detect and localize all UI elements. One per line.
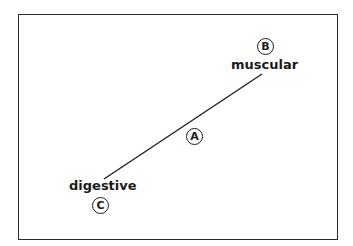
marker-b-letter: B: [261, 41, 269, 52]
connector-line: [0, 0, 353, 246]
marker-a: A: [186, 128, 203, 145]
label-muscular: muscular: [231, 58, 298, 71]
marker-b: B: [257, 38, 274, 55]
label-digestive: digestive: [69, 179, 137, 192]
marker-c: C: [92, 197, 109, 214]
marker-c-letter: C: [96, 200, 104, 211]
marker-a-letter: A: [190, 131, 199, 142]
